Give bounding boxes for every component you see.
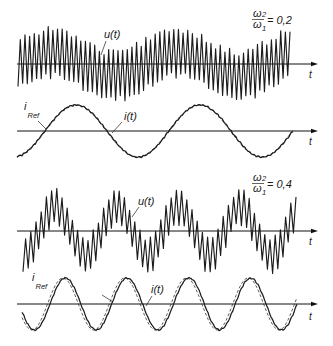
t-axis-label: t bbox=[309, 236, 313, 247]
u-label-leader bbox=[132, 207, 139, 217]
i-ref-leader bbox=[102, 295, 113, 302]
i-signal-label: i(t) bbox=[151, 283, 164, 295]
t-axis-label: t bbox=[309, 69, 313, 80]
t-axis-label: t bbox=[309, 136, 313, 147]
axis-arrow-icon bbox=[311, 129, 318, 133]
omega1-subscript: 1 bbox=[262, 188, 266, 197]
axis-arrow-icon bbox=[311, 302, 318, 306]
omega1-symbol: ω bbox=[253, 18, 262, 30]
t-axis-label: t bbox=[309, 311, 313, 322]
i-ref-leader bbox=[38, 121, 46, 129]
u-signal-label: u(t) bbox=[104, 28, 121, 40]
waveform-figure: t u(t) ω 2 ω 1 = 0,2 t i Ref i(t) t u(t) bbox=[0, 0, 333, 346]
u-signal bbox=[18, 27, 290, 101]
u-signal-label: u(t) bbox=[138, 195, 155, 207]
frequency-ratio-label: ω 2 ω 1 = 0,4 bbox=[252, 171, 292, 197]
ratio-value: = 0,4 bbox=[267, 178, 292, 190]
axis-arrow-icon bbox=[311, 229, 318, 233]
i-ref-subscript: Ref bbox=[28, 111, 41, 120]
ratio-value: = 0,2 bbox=[267, 14, 292, 26]
panel-i-ratio-04: t i Ref i(t) bbox=[17, 271, 318, 331]
i-signal-label: i(t) bbox=[124, 110, 137, 122]
frequency-ratio-label: ω 2 ω 1 = 0,2 bbox=[252, 7, 292, 33]
axis-arrow-icon bbox=[311, 62, 318, 66]
panel-u-ratio-04: t u(t) ω 2 ω 1 = 0,4 bbox=[17, 171, 318, 273]
omega1-subscript: 1 bbox=[262, 24, 266, 33]
omega1-symbol: ω bbox=[253, 182, 262, 194]
u-label-leader bbox=[101, 41, 106, 55]
panel-u-ratio-02: t u(t) ω 2 ω 1 = 0,2 bbox=[17, 7, 318, 101]
panel-i-ratio-02: t i Ref i(t) bbox=[17, 100, 318, 158]
i-ref-subscript: Ref bbox=[36, 282, 49, 291]
